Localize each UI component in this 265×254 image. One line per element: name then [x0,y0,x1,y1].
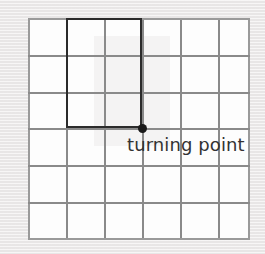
grid-diagram-figure: turning point [0,0,265,254]
turning-point-marker-dot [138,124,147,133]
bold-outlined-rectangle [66,18,142,128]
grid-line-horizontal-6 [28,238,250,240]
grid-line-horizontal-4 [28,165,250,167]
grid-line-horizontal-5 [28,202,250,204]
turning-point-label: turning point [127,134,245,155]
